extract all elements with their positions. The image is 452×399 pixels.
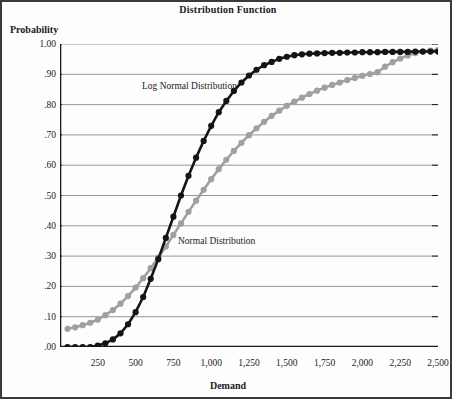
data-point [125, 321, 131, 327]
data-point [284, 54, 290, 60]
data-point [359, 73, 365, 79]
x-tick-label: 2,500 [416, 358, 452, 368]
data-point [420, 48, 426, 54]
data-point [397, 55, 403, 61]
data-point [170, 214, 176, 220]
y-tick-label: .20 [22, 281, 56, 291]
data-point [299, 95, 305, 101]
data-point [216, 166, 222, 172]
y-tick-label: .80 [22, 100, 56, 110]
y-axis-tick-labels: .00.10.20.30.40.50.60.70.80.901.00 [16, 44, 56, 347]
y-tick-label: .00 [22, 342, 56, 352]
data-point [185, 209, 191, 215]
data-point [133, 285, 139, 291]
data-point [322, 50, 328, 56]
data-point [314, 50, 320, 56]
data-point [322, 85, 328, 91]
data-point [140, 275, 146, 281]
data-point [80, 344, 86, 347]
data-point [231, 148, 237, 154]
data-point [193, 155, 199, 161]
data-point [117, 330, 123, 336]
data-point [261, 62, 267, 68]
data-point [102, 340, 108, 346]
data-point [269, 113, 275, 119]
data-point [374, 49, 380, 55]
data-point [427, 48, 433, 54]
y-tick-label: .50 [22, 191, 56, 201]
data-point [306, 91, 312, 97]
y-tick-label: .40 [22, 221, 56, 231]
data-point [344, 77, 350, 83]
data-point [306, 51, 312, 57]
series-line [68, 50, 438, 329]
data-point [314, 88, 320, 94]
data-point [95, 317, 101, 323]
data-point [223, 98, 229, 104]
data-point [276, 108, 282, 114]
data-point [178, 192, 184, 198]
data-point [291, 98, 297, 104]
data-point [269, 59, 275, 65]
data-point [64, 344, 70, 347]
data-point [208, 123, 214, 129]
data-point [344, 49, 350, 55]
data-point [125, 293, 131, 299]
chart-title: Distribution Function [2, 4, 452, 15]
data-point [117, 301, 123, 307]
data-point [412, 48, 418, 54]
data-point [352, 75, 358, 81]
data-point [397, 49, 403, 55]
data-point [238, 140, 244, 146]
data-point [238, 79, 244, 85]
data-point [140, 294, 146, 300]
data-point [95, 342, 101, 347]
data-point [185, 173, 191, 179]
y-tick-label: .70 [22, 130, 56, 140]
data-point [261, 119, 267, 125]
data-point [352, 49, 358, 55]
data-point [276, 56, 282, 62]
data-point [110, 336, 116, 342]
data-point [329, 82, 335, 88]
series-label-normal: Normal Distribution [178, 236, 255, 246]
data-point [246, 72, 252, 78]
data-point [359, 49, 365, 55]
series-label-log-normal: Log Normal Distribution [142, 81, 237, 91]
data-point [390, 59, 396, 65]
data-point [201, 138, 207, 144]
data-point [337, 50, 343, 56]
data-point [223, 157, 229, 163]
data-point [110, 307, 116, 313]
data-point [163, 235, 169, 241]
data-point [170, 232, 176, 238]
data-point [246, 132, 252, 138]
data-point [87, 320, 93, 326]
y-tick-label: 1.00 [22, 39, 56, 49]
data-point [299, 51, 305, 57]
series-log-normal-distribution [64, 47, 438, 332]
x-axis-tick-labels: 2505007501,0001,2501,5001,7502,0002,2502… [60, 358, 438, 374]
data-point [284, 103, 290, 109]
data-point [390, 49, 396, 55]
data-point [329, 50, 335, 56]
data-point [193, 198, 199, 204]
x-axis-title: Demand [2, 380, 452, 391]
data-point [87, 344, 93, 347]
data-point [64, 326, 70, 332]
data-point [405, 49, 411, 55]
data-point [102, 312, 108, 318]
data-point [201, 187, 207, 193]
chart-svg [60, 44, 438, 347]
data-point [382, 49, 388, 55]
data-point [367, 71, 373, 77]
y-tick-label: .60 [22, 160, 56, 170]
data-point [80, 322, 86, 328]
y-tick-label: .90 [22, 69, 56, 79]
data-point [291, 52, 297, 58]
data-point [148, 276, 154, 282]
data-point [72, 344, 78, 347]
data-point [155, 256, 161, 262]
data-point [253, 67, 259, 73]
data-point [72, 324, 78, 330]
